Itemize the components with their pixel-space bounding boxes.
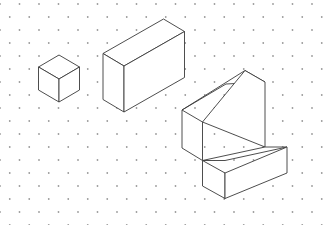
grid-dot [106, 146, 108, 148]
grid-dot [214, 81, 216, 83]
grid-dot [233, 3, 235, 5]
grid-dot [321, 68, 323, 70]
grid-dot [253, 3, 255, 5]
grid-dot [67, 16, 69, 18]
grid-dot [214, 3, 216, 5]
grid-dot [28, 198, 30, 200]
grid-dot [292, 185, 294, 187]
grid-dot [214, 211, 216, 213]
grid-dot [145, 120, 147, 122]
grid-dot [272, 211, 274, 213]
grid-dot [77, 107, 79, 109]
grid-dot [106, 16, 108, 18]
grid-dot [311, 55, 313, 57]
grid-dot [9, 16, 11, 18]
grid-dot [253, 211, 255, 213]
grid-dot [155, 211, 157, 213]
grid-dot [136, 211, 138, 213]
grid-dot [19, 211, 21, 213]
grid-dot [87, 94, 89, 96]
grid-dot [77, 55, 79, 57]
grid-dot [282, 68, 284, 70]
grid-dot [116, 3, 118, 5]
grid-dot [214, 29, 216, 31]
grid-dot [58, 3, 60, 5]
grid-dot [77, 211, 79, 213]
grid-dot [9, 94, 11, 96]
grid-dot [204, 16, 206, 18]
grid-dot [292, 3, 294, 5]
grid-dot [311, 185, 313, 187]
grid-dot [48, 16, 50, 18]
grid-dot [194, 55, 196, 57]
grid-dot [253, 29, 255, 31]
grid-dot [282, 94, 284, 96]
grid-dot [262, 16, 264, 18]
grid-dot [311, 81, 313, 83]
grid-dot [311, 159, 313, 161]
grid-dot [262, 68, 264, 70]
grid-dot [126, 16, 128, 18]
grid-dot [77, 133, 79, 135]
grid-dot [28, 146, 30, 148]
grid-dot [126, 172, 128, 174]
grid-dot [58, 159, 60, 161]
grid-dot [38, 211, 40, 213]
grid-dot [272, 133, 274, 135]
grid-dot [262, 198, 264, 200]
grid-dot [19, 81, 21, 83]
grid-dot [194, 159, 196, 161]
grid-dot [145, 146, 147, 148]
grid-dot [292, 133, 294, 135]
grid-dot [67, 146, 69, 148]
grid-dot [175, 3, 177, 5]
grid-dot [9, 198, 11, 200]
grid-dot [311, 211, 313, 213]
grid-dot [155, 107, 157, 109]
grid-dot [38, 185, 40, 187]
grid-dot [28, 172, 30, 174]
grid-dot [194, 3, 196, 5]
grid-dot [194, 185, 196, 187]
grid-dot [165, 146, 167, 148]
grid-dot [223, 42, 225, 44]
grid-dot [243, 42, 245, 44]
grid-dot [321, 146, 323, 148]
grid-dot [67, 42, 69, 44]
grid-dot [301, 146, 303, 148]
grid-dot [87, 68, 89, 70]
grid-dot [292, 81, 294, 83]
grid-dot [9, 172, 11, 174]
grid-dot [155, 3, 157, 5]
grid-dot [28, 94, 30, 96]
grid-dot [116, 159, 118, 161]
grid-dot [97, 133, 99, 135]
grid-dot [155, 133, 157, 135]
grid-dot [282, 16, 284, 18]
grid-dot [292, 107, 294, 109]
grid-dot [28, 68, 30, 70]
grid-dot [272, 29, 274, 31]
grid-dot [282, 198, 284, 200]
grid-dot [97, 211, 99, 213]
grid-dot [38, 29, 40, 31]
grid-dot [311, 29, 313, 31]
grid-dot [58, 29, 60, 31]
grid-dot [204, 198, 206, 200]
grid-dot [165, 172, 167, 174]
grid-dot [175, 133, 177, 135]
grid-dot [136, 133, 138, 135]
grid-dot [97, 185, 99, 187]
grid-dot [77, 159, 79, 161]
grid-dot [194, 81, 196, 83]
grid-dot [175, 107, 177, 109]
grid-dot [97, 81, 99, 83]
grid-dot [106, 120, 108, 122]
grid-dot [262, 42, 264, 44]
grid-dot [311, 107, 313, 109]
grid-dot [87, 146, 89, 148]
grid-dot [282, 42, 284, 44]
grid-dot [292, 159, 294, 161]
grid-dot [321, 172, 323, 174]
grid-dot [165, 94, 167, 96]
